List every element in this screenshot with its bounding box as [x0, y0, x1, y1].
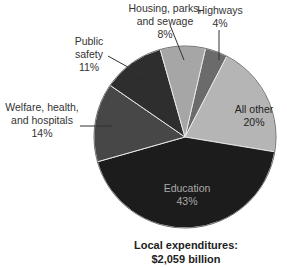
caption-title: Local expenditures:	[118, 238, 254, 252]
caption-total: $2,059 billion	[118, 252, 254, 266]
label-highways: Highways 4%	[190, 4, 250, 30]
label-public-safety: Public safety 11%	[64, 35, 114, 74]
chart-caption: Local expenditures: $2,059 billion	[118, 238, 254, 266]
label-welfare: Welfare, health, and hospitals 14%	[0, 101, 84, 140]
label-all-other: All other 20%	[224, 103, 284, 129]
label-education: Education 43%	[150, 182, 224, 208]
